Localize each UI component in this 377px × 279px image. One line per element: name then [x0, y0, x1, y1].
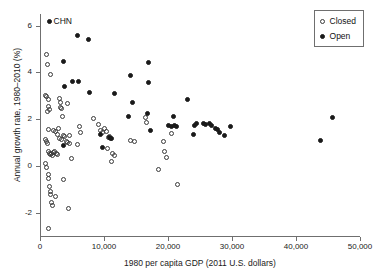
data-point-open	[174, 124, 179, 129]
data-point-open	[100, 145, 105, 150]
data-point-open	[76, 79, 81, 84]
data-point-closed	[66, 206, 71, 211]
legend-label-open: Open	[330, 32, 351, 41]
legend: Closed Open	[314, 10, 364, 47]
x-tick	[168, 237, 169, 241]
annotation-chn: CHN	[54, 16, 72, 26]
x-tick-label: 20,000	[145, 243, 191, 251]
data-point-open	[148, 128, 153, 133]
x-tick	[104, 237, 105, 241]
data-point-open	[228, 124, 233, 129]
data-point-closed	[45, 62, 50, 67]
plot-area	[40, 14, 360, 236]
legend-label-closed: Closed	[330, 17, 356, 26]
x-tick-label: 40,000	[273, 243, 319, 251]
data-point-open	[61, 143, 66, 148]
data-point-open	[75, 33, 80, 38]
data-point-open	[146, 60, 151, 65]
data-point-open	[191, 132, 196, 137]
data-point-open	[222, 133, 227, 138]
data-point-closed	[48, 192, 53, 197]
data-point-closed	[112, 153, 117, 158]
data-point-open	[171, 114, 176, 119]
x-axis-title: 1980 per capita GDP (2011 U.S. dollars)	[40, 258, 360, 268]
data-point-closed	[109, 159, 114, 164]
x-tick-label: 30,000	[209, 243, 255, 251]
y-tick-label: 0	[10, 162, 32, 170]
x-tick	[40, 237, 41, 241]
y-tick-label: 6	[10, 22, 32, 30]
data-point-closed	[104, 129, 109, 134]
data-point-closed	[105, 146, 110, 151]
data-point-open	[145, 111, 150, 116]
data-point-closed	[77, 124, 82, 129]
x-axis-line	[40, 236, 360, 237]
data-point-closed	[91, 116, 96, 121]
data-point-closed	[61, 177, 66, 182]
data-point-open	[98, 132, 103, 137]
data-point-open	[109, 136, 114, 141]
data-point-closed	[67, 141, 72, 146]
x-tick	[232, 237, 233, 241]
data-point-open	[86, 37, 91, 42]
x-tick-label: 50,000	[337, 243, 377, 251]
data-point-closed	[156, 167, 161, 172]
legend-item-open[interactable]: Open	[320, 30, 356, 42]
data-point-closed	[96, 122, 101, 127]
data-point-open	[70, 79, 75, 84]
x-tick-label: 10,000	[81, 243, 127, 251]
data-point-open	[61, 59, 66, 64]
data-point-closed	[50, 203, 55, 208]
data-point-closed	[48, 72, 53, 77]
data-point-open	[146, 80, 151, 85]
x-tick-label: 0	[17, 243, 63, 251]
y-tick-label: -2	[10, 209, 32, 217]
open-circle-icon	[320, 19, 325, 24]
x-tick	[360, 237, 361, 241]
data-point-closed	[161, 139, 166, 144]
data-point-open	[47, 19, 52, 24]
y-tick-label: 2	[10, 115, 32, 123]
legend-item-closed[interactable]: Closed	[320, 15, 356, 27]
x-tick	[296, 237, 297, 241]
y-tick-label: 4	[10, 68, 32, 76]
filled-circle-icon	[320, 34, 325, 39]
data-point-closed	[55, 132, 60, 137]
